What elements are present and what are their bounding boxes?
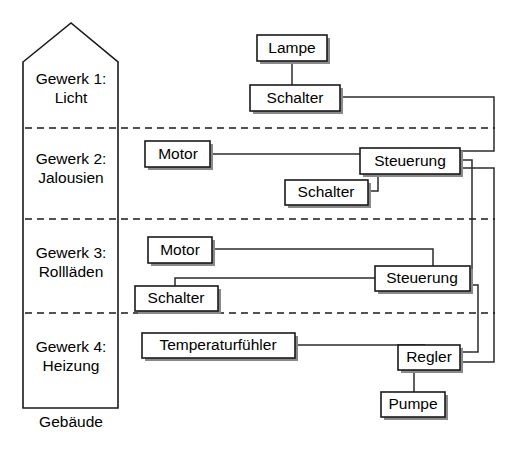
zone-label-gewerk2-line2: Jalousien	[38, 169, 104, 186]
node-steuerung2[interactable]: Steuerung	[375, 266, 473, 294]
edge-steuerung2-regler	[460, 285, 478, 352]
zone-label-gewerk3-line2: Rollläden	[39, 263, 104, 280]
node-motor2[interactable]: Motor	[148, 237, 215, 266]
edge-schalter3-steuerung2	[175, 278, 375, 286]
edge-motor2-steuerung2	[212, 249, 433, 266]
node-lampe[interactable]: Lampe	[257, 35, 330, 64]
node-temperaturfuehler-label: Temperaturfühler	[159, 336, 276, 353]
node-schalter2[interactable]: Schalter	[285, 180, 371, 208]
edge-schalter1-steuerung1	[340, 97, 494, 151]
edge-steuerung1-steuerung2	[460, 160, 472, 274]
node-steuerung1[interactable]: Steuerung	[360, 148, 463, 177]
zone-label-gewerk4-line2: Heizung	[43, 357, 100, 374]
node-steuerung2-label: Steuerung	[386, 269, 458, 286]
node-lampe-label: Lampe	[268, 39, 315, 56]
building-caption: Gebäude	[39, 413, 103, 430]
node-schalter1[interactable]: Schalter	[250, 85, 343, 114]
node-temperaturfuehler[interactable]: Temperaturfühler	[142, 333, 298, 361]
node-schalter3-label: Schalter	[148, 289, 205, 306]
node-steuerung1-label: Steuerung	[374, 152, 446, 169]
edge-steuerung1-regler	[460, 168, 494, 362]
node-schalter2-label: Schalter	[298, 183, 355, 200]
node-pumpe[interactable]: Pumpe	[381, 392, 448, 420]
node-pumpe-label: Pumpe	[388, 395, 437, 412]
zone-label-gewerk3-line1: Gewerk 3:	[36, 244, 107, 261]
node-regler[interactable]: Regler	[398, 345, 463, 373]
node-schalter1-label: Schalter	[267, 89, 324, 106]
node-regler-label: Regler	[406, 348, 452, 365]
node-motor2-label: Motor	[160, 241, 200, 258]
zone-label-gewerk1-line1: Gewerk 1:	[36, 70, 107, 87]
zone-label-gewerk2-line1: Gewerk 2:	[36, 150, 107, 167]
node-schalter3[interactable]: Schalter	[135, 286, 221, 314]
node-motor1-label: Motor	[158, 145, 198, 162]
zone-label-gewerk4-line1: Gewerk 4:	[36, 338, 107, 355]
node-motor1[interactable]: Motor	[145, 141, 213, 170]
zone-label-gewerk1-line2: Licht	[55, 89, 88, 106]
gebaeude-gewerke-diagram: Gewerk 1: Licht Gewerk 2: Jalousien Gewe…	[0, 0, 519, 449]
diagram-canvas: Gewerk 1: Licht Gewerk 2: Jalousien Gewe…	[0, 0, 519, 449]
